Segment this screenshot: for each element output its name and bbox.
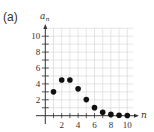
grid — [45, 28, 133, 115]
data-point — [59, 77, 65, 83]
panel-label: (a) — [3, 10, 18, 24]
x-tick-label: 4 — [76, 120, 81, 130]
y-tick-label: 4 — [36, 79, 41, 89]
y-tick-label: 10 — [31, 31, 41, 41]
x-axis-label: n — [141, 110, 147, 120]
data-point — [92, 105, 98, 111]
axes — [36, 24, 139, 124]
y-axis-label: an — [40, 11, 49, 22]
x-tick-label: 6 — [92, 120, 97, 130]
x-tick-label: 8 — [109, 120, 114, 130]
x-tick-label: 2 — [59, 120, 64, 130]
data-point — [67, 77, 73, 83]
x-tick-label: 10 — [123, 120, 133, 130]
data-point — [125, 113, 131, 119]
y-axis-arrow-icon — [43, 24, 47, 29]
y-tick-label: 6 — [36, 63, 41, 73]
data-point — [75, 86, 81, 92]
sequence-plot: (a) 246810246810 an n — [0, 0, 154, 132]
data-point — [51, 89, 57, 95]
x-axis-arrow-icon — [134, 114, 139, 118]
y-tick-label: 2 — [36, 95, 41, 105]
data-point — [116, 112, 122, 118]
y-tick-label: 8 — [36, 47, 41, 57]
data-point — [108, 112, 114, 118]
data-points — [51, 77, 130, 118]
data-point — [84, 97, 90, 103]
data-point — [100, 109, 106, 115]
